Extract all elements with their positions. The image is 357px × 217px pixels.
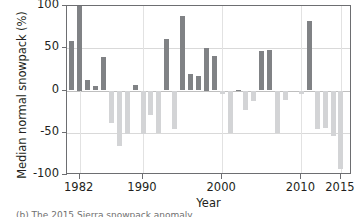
x-tick-mark [79, 174, 80, 179]
gridline-vertical [143, 6, 144, 173]
bar [307, 21, 312, 90]
x-axis-title: Year [66, 196, 351, 210]
bar [228, 91, 233, 133]
y-tick-mark [62, 174, 67, 175]
gridline-horizontal [67, 133, 350, 134]
bar [188, 74, 193, 91]
gridline-vertical [222, 6, 223, 173]
bar [212, 56, 217, 91]
x-tick-label: 2015 [317, 182, 357, 194]
bar [251, 91, 256, 101]
figure-caption: (b) The 2015 Sierra snowpack anomaly [16, 210, 357, 217]
bar [164, 39, 169, 91]
bar [77, 6, 82, 91]
bar [331, 91, 336, 137]
x-tick-label: 2000 [198, 182, 244, 194]
bar [141, 91, 146, 135]
y-axis-title: Median normal snowpack (%) [15, 0, 29, 190]
bar [236, 90, 241, 91]
bar [156, 91, 161, 133]
bar [133, 85, 138, 90]
bar [315, 91, 320, 129]
bar [299, 91, 304, 94]
x-tick-label: 1990 [119, 182, 165, 194]
bar [243, 91, 248, 110]
bar [125, 91, 130, 135]
y-tick-mark [62, 90, 67, 91]
y-tick-label: 50 [15, 41, 59, 53]
y-tick-label: 100 [15, 0, 59, 11]
y-tick-mark [62, 132, 67, 133]
gridline-vertical [301, 6, 302, 173]
bar [267, 50, 272, 91]
bar [220, 91, 225, 94]
bar [323, 91, 328, 128]
x-tick-label: 1982 [56, 182, 102, 194]
bar [109, 91, 114, 124]
x-tick-mark [340, 174, 341, 179]
x-tick-mark [300, 174, 301, 179]
bar [101, 57, 106, 91]
x-tick-mark [221, 174, 222, 179]
bar [93, 86, 98, 90]
bar [172, 91, 177, 130]
bar [196, 76, 201, 90]
y-tick-label: -50 [15, 126, 59, 138]
plot-area [66, 5, 351, 174]
y-tick-label: -100 [15, 168, 59, 180]
bar [275, 91, 280, 133]
y-tick-mark [62, 47, 67, 48]
snowpack-bar-chart-figure: Median normal snowpack (%) 100500-50-100… [0, 0, 357, 217]
bar [117, 91, 122, 147]
x-tick-mark [142, 174, 143, 179]
bar [148, 91, 153, 116]
bar [69, 41, 74, 90]
bar [180, 16, 185, 90]
y-tick-label: 0 [15, 84, 59, 96]
bar [204, 48, 209, 90]
bar [85, 80, 90, 91]
bar [259, 51, 264, 91]
bar [338, 91, 343, 170]
y-tick-mark [62, 5, 67, 6]
bar [283, 91, 288, 100]
